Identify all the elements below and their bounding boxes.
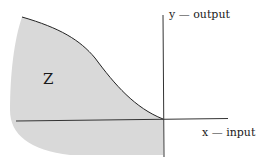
region-label: Z [43, 70, 53, 88]
y-axis-line [163, 15, 164, 157]
diagram-canvas [0, 0, 264, 166]
x-axis-label: x — input [202, 126, 255, 139]
production-set-diagram: y — output x — input Z [0, 0, 264, 166]
region-z-shape [10, 17, 163, 155]
y-axis-label: y — output [169, 8, 230, 21]
